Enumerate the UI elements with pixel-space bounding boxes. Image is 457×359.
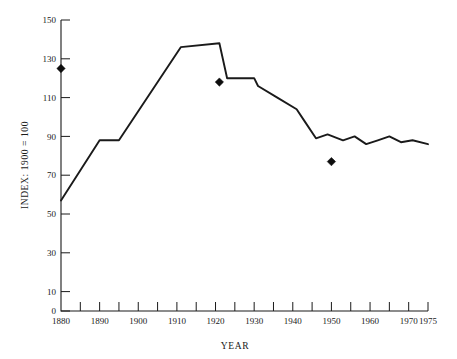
diamond-marker	[215, 78, 223, 86]
x-tick-label: 1900	[129, 316, 148, 326]
y-tick-label: 0	[52, 306, 57, 316]
x-tick-label: 1910	[168, 316, 187, 326]
y-tick-label: 110	[43, 93, 57, 103]
y-tick-label: 70	[47, 170, 57, 180]
data-point-markers	[57, 64, 336, 166]
y-tick-label: 50	[47, 209, 57, 219]
x-axis-ticks: 1880189019001910192019301940195019601970…	[52, 302, 438, 326]
x-tick-label: 1920	[207, 316, 226, 326]
axes	[61, 20, 428, 311]
x-tick-label: 1930	[245, 316, 264, 326]
y-axis-title: INDEX: 1900 = 100	[20, 121, 30, 209]
series-line-index-line	[61, 43, 428, 200]
x-tick-label: 1975	[419, 316, 438, 326]
y-axis-ticks: 01030507090110130150	[43, 15, 71, 316]
chart-container: 01030507090110130150 1880189019001910192…	[0, 0, 457, 359]
x-axis-title: YEAR	[221, 341, 249, 351]
diamond-marker	[327, 157, 335, 165]
y-tick-label: 130	[43, 54, 57, 64]
x-tick-label: 1950	[322, 316, 341, 326]
diamond-marker	[57, 64, 65, 72]
y-tick-label: 90	[47, 132, 57, 142]
y-tick-label: 150	[43, 15, 57, 25]
x-tick-label: 1960	[361, 316, 380, 326]
x-tick-label: 1940	[284, 316, 303, 326]
x-tick-label: 1970	[400, 316, 419, 326]
x-tick-label: 1880	[52, 316, 71, 326]
data-series	[61, 43, 428, 200]
axis-lines	[61, 20, 428, 311]
line-chart: 01030507090110130150 1880189019001910192…	[0, 0, 457, 359]
y-tick-label: 30	[47, 248, 57, 258]
y-tick-label: 10	[47, 287, 57, 297]
x-tick-label: 1890	[91, 316, 110, 326]
